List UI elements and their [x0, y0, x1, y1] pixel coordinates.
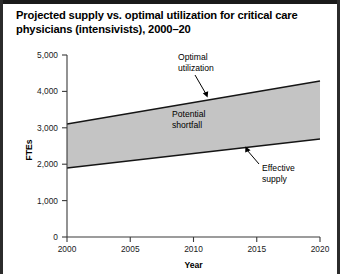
chart-plot-area: 5,000 4,000 3,000 2,000 1,000 0 2000 200… — [0, 40, 340, 274]
x-tick-label-2010: 2010 — [184, 244, 203, 254]
y-tick-label-3000: 3,000 — [37, 123, 58, 133]
y-tick-label-5000: 5,000 — [37, 50, 58, 60]
x-tick-label-2020: 2020 — [311, 244, 330, 254]
y-tick-label-0: 0 — [53, 232, 58, 242]
y-tick-label-4000: 4,000 — [37, 86, 58, 96]
y-tick-label-1000: 1,000 — [37, 196, 58, 206]
annotation-effective-supply-line1: Effective — [262, 163, 295, 173]
annotation-effective-supply-line2: supply — [262, 174, 288, 184]
top-rule-divider — [0, 0, 340, 4]
annotation-optimal-leader-line — [195, 75, 206, 94]
annotation-potential-shortfall-line1: Potential — [172, 109, 206, 119]
chart-svg: 5,000 4,000 3,000 2,000 1,000 0 2000 200… — [0, 40, 340, 274]
y-tick-label-2000: 2,000 — [37, 159, 58, 169]
x-tick-label-2005: 2005 — [121, 244, 140, 254]
figure-title: Projected supply vs. optimal utilization… — [16, 8, 316, 36]
x-tick-label-2015: 2015 — [247, 244, 266, 254]
annotation-potential-shortfall-line2: shortfall — [172, 120, 202, 130]
figure-container: Projected supply vs. optimal utilization… — [0, 0, 340, 274]
x-tick-label-2000: 2000 — [58, 244, 77, 254]
annotation-optimal-utilization-line1: Optimal — [178, 52, 208, 62]
annotation-optimal-utilization-line2: utilization — [178, 63, 214, 73]
y-axis-title: FTEs — [24, 139, 34, 160]
annotation-supply-leader-line — [247, 150, 259, 164]
x-axis-title: Year — [184, 260, 203, 270]
